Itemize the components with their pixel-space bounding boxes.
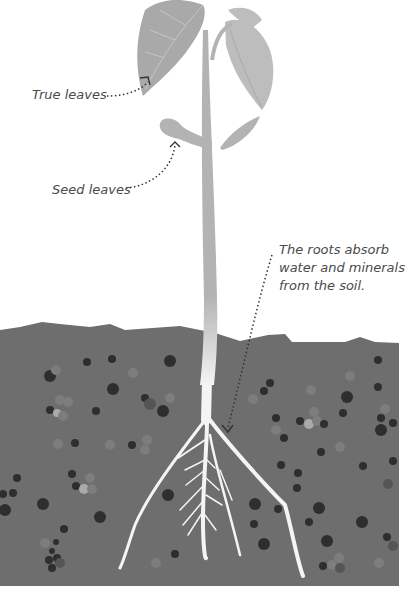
roots-text-line-1: The roots absorb [279, 241, 413, 259]
seed-leaves-text: Seed leaves [52, 181, 131, 199]
soil [0, 322, 399, 586]
label-seed-leaves: Seed leaves [52, 181, 131, 199]
roots-text-line-3: from the soil. [279, 277, 413, 295]
seedling-diagram: True leaves Seed leaves The roots absorb… [0, 0, 413, 599]
true-leaves-text: True leaves [32, 86, 107, 104]
label-roots: The roots absorb water and minerals from… [279, 241, 413, 295]
label-true-leaves: True leaves [32, 86, 107, 104]
roots-text-line-2: water and minerals [279, 259, 413, 277]
